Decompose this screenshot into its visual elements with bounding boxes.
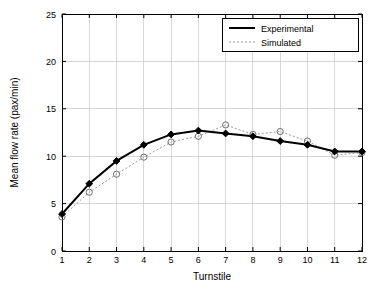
data-point-experimental [277,138,284,145]
x-tick-label: 5 [169,255,174,265]
legend-label-simulated: Simulated [261,38,301,48]
y-axis-title: Mean flow rate (pax/min) [9,77,20,187]
series-line-simulated [62,125,362,217]
y-tick-label: 5 [51,199,56,209]
y-tick-label: 15 [46,104,56,114]
x-tick-label: 8 [250,255,255,265]
data-point-experimental [195,127,202,134]
x-tick-label: 6 [196,255,201,265]
x-tick-label: 9 [278,255,283,265]
y-tick-label: 25 [46,10,56,20]
line-chart: 0510152025123456789101112TurnstileMean f… [0,0,374,302]
x-tick-label: 2 [87,255,92,265]
data-point-experimental [222,130,229,137]
x-tick-label: 11 [330,255,339,265]
x-tick-label: 1 [59,255,64,265]
x-axis-title: Turnstile [193,271,231,282]
legend-label-experimental: Experimental [261,24,314,34]
y-tick-label: 0 [51,247,56,257]
x-tick-label: 12 [357,255,367,265]
x-tick-label: 4 [141,255,146,265]
series-line-experimental [62,131,362,214]
chart-container: 0510152025123456789101112TurnstileMean f… [0,0,374,302]
data-point-experimental [168,131,175,138]
x-tick-label: 10 [302,255,312,265]
x-tick-label: 7 [223,255,228,265]
x-tick-label: 3 [114,255,119,265]
y-tick-label: 20 [46,57,56,67]
y-tick-label: 10 [46,152,56,162]
